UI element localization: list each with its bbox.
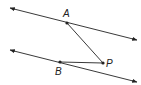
point-a-dot xyxy=(65,21,68,24)
point-b-dot xyxy=(58,60,61,63)
diagram-svg: A B P xyxy=(0,0,141,85)
geometry-diagram: A B P xyxy=(0,0,141,85)
segment-bp xyxy=(60,62,103,63)
bottom-parallel-line xyxy=(10,50,137,82)
top-parallel-line xyxy=(10,8,137,40)
point-a-label: A xyxy=(62,8,70,19)
point-b-label: B xyxy=(55,66,62,77)
segment-ap xyxy=(67,23,103,63)
point-p-dot xyxy=(101,61,104,64)
point-p-label: P xyxy=(106,58,113,69)
